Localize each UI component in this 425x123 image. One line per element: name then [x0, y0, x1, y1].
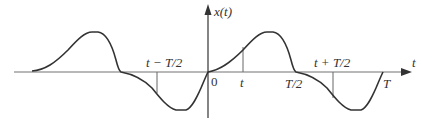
tick-t-plus-half: t + T/2	[314, 55, 351, 70]
diagram-svg: x(t) t 0 t − T/2 t T/2 t + T/2 T	[0, 0, 425, 123]
signal-diagram: x(t) t 0 t − T/2 t T/2 t + T/2 T	[0, 0, 425, 123]
tick-t: t	[240, 75, 244, 90]
signal-curve	[208, 32, 383, 110]
time-axis-arrow-icon	[401, 68, 412, 76]
origin-label: 0	[211, 74, 218, 89]
signal-curve-previous-period	[32, 32, 208, 110]
x-axis-label: t	[412, 55, 416, 70]
tick-period: T	[383, 76, 391, 91]
tick-half-period: T/2	[285, 76, 303, 91]
tick-t-minus-half: t − T/2	[146, 55, 183, 70]
y-axis-label: x(t)	[213, 4, 232, 19]
amplitude-axis-arrow-icon	[205, 4, 212, 15]
